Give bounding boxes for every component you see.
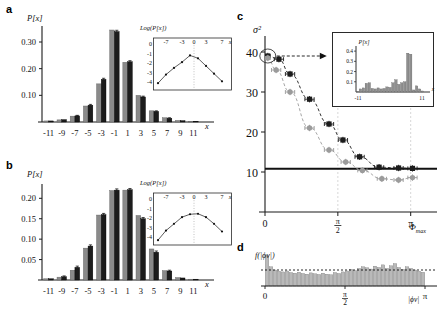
histogram-bar (337, 274, 341, 286)
x-tick-label-pi-over-2: π2 (334, 217, 341, 235)
histogram-bar (345, 271, 349, 286)
inset-x-tick-label: -7 (164, 194, 169, 200)
bar-gray (44, 121, 49, 122)
bar-black (128, 190, 133, 280)
data-point-circle (343, 159, 348, 164)
data-point-square (340, 137, 345, 142)
inset-bar (380, 89, 382, 92)
bar-black (180, 278, 185, 280)
x-tick-label: -5 (85, 128, 92, 138)
histogram-bar (265, 256, 269, 286)
inset-bar (398, 84, 400, 92)
x-tick-label: 11 (189, 128, 197, 138)
histogram-bar (325, 274, 329, 286)
data-point-square (396, 165, 401, 170)
panel-b-inset-plot: -7-30370-1-2-3-4x (140, 187, 230, 249)
data-point-square (376, 165, 381, 170)
inset-x-tick-label: -3 (180, 194, 185, 200)
bar-black (114, 32, 119, 122)
inset-x-tick-label: -7 (164, 39, 169, 45)
bar-gray (110, 191, 115, 280)
histogram-bar (285, 271, 289, 286)
inset-x-tick-label: 7 (221, 194, 224, 200)
inset-bar (389, 87, 391, 92)
x-tick-label: 1 (125, 128, 129, 138)
data-point-square (276, 57, 281, 62)
bar-gray (149, 249, 154, 280)
bar-gray (176, 120, 181, 122)
y-tick-label: 0.10 (21, 234, 36, 244)
svg-text:2: 2 (343, 298, 347, 307)
bar-gray (162, 118, 167, 122)
inset-y-tick-label: 0.4 (346, 48, 353, 54)
inset-y-tick-label: -1 (147, 206, 152, 212)
bar-black (88, 105, 93, 122)
panel-b: b P[x] x 0.050.100.150.20-11-9-7-5-3-113… (0, 157, 225, 314)
panel-d-xlabel: |ϕv| (408, 295, 419, 304)
inset-y-tick-label: 0 (149, 196, 152, 202)
histogram-bar (309, 273, 313, 286)
bar-gray (123, 190, 128, 280)
data-point-circle (287, 89, 292, 94)
panel-c-label: c (237, 10, 243, 22)
x-tick-label: 3 (139, 128, 143, 138)
histogram-bar (297, 272, 301, 286)
inset-x-tick-label: 11 (419, 95, 425, 101)
bar-gray (189, 279, 194, 280)
histogram-bar (329, 275, 333, 286)
bar-black (180, 121, 185, 122)
bar-black (88, 246, 93, 280)
inset-y-tick-label: -2 (147, 60, 152, 66)
bar-black (101, 215, 106, 280)
x-tick-label: -7 (71, 286, 78, 296)
callout-arrow-head (320, 53, 327, 59)
data-point-circle (307, 125, 312, 130)
inset-bar (374, 89, 376, 92)
inset-data-point (221, 80, 223, 82)
inset-data-point (189, 54, 191, 56)
inset-x-tick-label: 7 (221, 39, 224, 45)
data-point-square (357, 154, 362, 159)
inset-data-point (205, 216, 207, 218)
histogram-bar (273, 270, 277, 286)
y-tick-label: 40 (246, 46, 258, 60)
inset-title: P[x] (358, 39, 371, 46)
inset-bar (401, 83, 403, 92)
inset-bar (356, 91, 358, 92)
histogram-bar (321, 273, 325, 286)
bar-gray (57, 277, 62, 280)
inset-x-tick-label: -3 (180, 39, 185, 45)
bar-gray (83, 248, 88, 280)
bar-gray (97, 215, 102, 280)
panel-a: a P[x] x 0.100.200.30-11-9-7-5-3-1135791… (0, 0, 225, 157)
bar-black (141, 97, 146, 122)
data-point-circle (360, 168, 365, 173)
x-tick-label: 1 (125, 286, 129, 296)
histogram-bar (385, 268, 389, 286)
inset-x-axis-label: x (431, 86, 435, 92)
bar-black (49, 279, 54, 280)
x-tick-label: 7 (165, 128, 169, 138)
histogram-bar (401, 269, 405, 286)
x-tick-label: 0 (263, 218, 268, 229)
data-point-square (287, 71, 292, 76)
inset-y-tick-label: -2 (147, 215, 152, 221)
histogram-bar (317, 274, 321, 286)
data-point-square (307, 97, 312, 102)
panel-d-ylabel: f(|ϕv|) (255, 251, 275, 260)
inset-data-point (181, 61, 183, 63)
x-tick-label: π (423, 291, 428, 301)
inset-data-point (213, 73, 215, 75)
inset-bar (412, 90, 414, 92)
inset-data-point (173, 223, 175, 225)
bar-black (114, 190, 119, 280)
svg-text:2: 2 (336, 226, 340, 235)
bar-gray (57, 120, 62, 122)
data-point-square (410, 166, 415, 171)
panel-d: d f(|ϕv|) |ϕv| 0ππ2 (225, 240, 442, 314)
inset-y-tick-label: 0.3 (346, 58, 353, 64)
inset-x-tick-label: -11 (354, 95, 361, 101)
inset-y-tick-label: 0 (149, 41, 152, 47)
x-tick-label: 5 (152, 286, 156, 296)
bar-gray (189, 121, 194, 122)
